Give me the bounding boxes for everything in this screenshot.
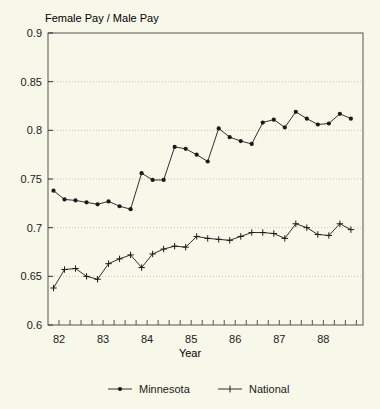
data-point-marker [228, 135, 232, 139]
y-tick-label: 0.7 [27, 222, 42, 234]
data-point-marker [173, 145, 177, 149]
chart-container: Female Pay / Male Pay 0.60.650.70.750.80… [0, 0, 380, 409]
data-point-marker [51, 189, 55, 193]
data-point-marker [184, 147, 188, 151]
x-tick-label: 82 [53, 333, 65, 345]
data-point-marker [206, 159, 210, 163]
data-point-marker [95, 202, 99, 206]
x-tick-label: 84 [141, 333, 153, 345]
data-point-marker [62, 197, 66, 201]
x-tick-label: 87 [273, 333, 285, 345]
y-tick-label: 0.75 [21, 173, 42, 185]
y-tick-label: 0.8 [27, 124, 42, 136]
legend-dot-marker [118, 387, 122, 391]
data-point-marker [250, 142, 254, 146]
data-point-marker [195, 153, 199, 157]
x-axis-title: Year [179, 347, 202, 359]
data-point-marker [151, 178, 155, 182]
data-point-marker [217, 126, 221, 130]
data-point-marker [272, 118, 276, 122]
y-tick-label: 0.85 [21, 76, 42, 88]
y-tick-label: 0.9 [27, 27, 42, 39]
data-point-marker [106, 199, 110, 203]
data-point-marker [162, 178, 166, 182]
x-tick-label: 88 [317, 333, 329, 345]
data-point-marker [84, 200, 88, 204]
data-point-marker [294, 110, 298, 114]
y-tick-label: 0.65 [21, 270, 42, 282]
legend-label-national: National [249, 383, 289, 395]
y-axis-title: Female Pay / Male Pay [45, 12, 159, 24]
pay-ratio-line-chart: Female Pay / Male Pay 0.60.650.70.750.80… [0, 0, 380, 409]
data-point-marker [305, 117, 309, 121]
data-point-marker [338, 112, 342, 116]
legend-label-minnesota: Minnesota [139, 383, 191, 395]
x-tick-label: 83 [97, 333, 109, 345]
data-point-marker [73, 198, 77, 202]
data-point-marker [261, 120, 265, 124]
data-point-marker [349, 117, 353, 121]
y-tick-label: 0.6 [27, 319, 42, 331]
data-point-marker [117, 204, 121, 208]
x-tick-label: 85 [185, 333, 197, 345]
data-point-marker [283, 125, 287, 129]
data-point-marker [129, 207, 133, 211]
data-point-marker [327, 121, 331, 125]
data-point-marker [239, 139, 243, 143]
data-point-marker [140, 171, 144, 175]
data-point-marker [316, 122, 320, 126]
x-tick-label: 86 [229, 333, 241, 345]
